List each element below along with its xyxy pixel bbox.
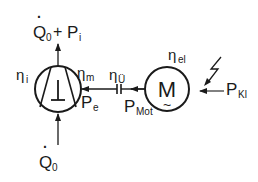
svg-text:m: m (86, 72, 94, 83)
svg-text:el: el (178, 54, 186, 65)
svg-text:Kl: Kl (238, 89, 247, 100)
svg-text:0: 0 (52, 162, 58, 173)
svg-text:Mot: Mot (136, 106, 153, 117)
svg-text:Ü: Ü (118, 74, 125, 85)
svg-text:P: P (81, 93, 92, 112)
svg-text:η: η (168, 46, 176, 63)
svg-text:P: P (67, 23, 78, 42)
svg-text:+: + (53, 23, 62, 40)
svg-text:·: · (43, 139, 48, 155)
svg-text:η: η (109, 66, 117, 83)
eta-el-label: η el (168, 46, 186, 65)
svg-text:P: P (226, 80, 237, 99)
svg-text:·: · (37, 9, 42, 25)
pe-label: P e (81, 93, 99, 113)
svg-text:i: i (79, 32, 81, 43)
eta-i-label: η i (16, 66, 28, 85)
eta-u-label: η Ü (109, 66, 125, 85)
bottom-input-label: Q · 0 (39, 139, 58, 173)
svg-text:e: e (93, 102, 99, 113)
lightning-bolt-icon (204, 57, 221, 86)
compressor-symbol (35, 66, 81, 112)
svg-text:i: i (26, 74, 28, 85)
svg-text:0: 0 (46, 32, 52, 43)
eta-m-label: η m (77, 64, 94, 83)
svg-text:Q: Q (39, 153, 52, 172)
top-output-label: Q · 0 + P i (33, 9, 81, 43)
svg-text:~: ~ (163, 97, 171, 113)
energy-flow-diagram: Q · 0 + P i η i η m P e Q · 0 (0, 0, 258, 182)
svg-text:η: η (77, 64, 85, 81)
svg-text:η: η (16, 66, 24, 83)
svg-text:Q: Q (33, 23, 46, 42)
pkl-label: P Kl (226, 80, 247, 100)
svg-text:P: P (124, 97, 135, 116)
